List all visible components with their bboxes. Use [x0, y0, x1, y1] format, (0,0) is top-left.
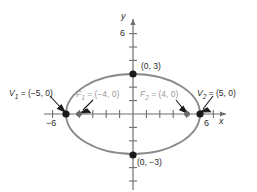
vertex2-label: V2 = (5, 0) — [197, 89, 236, 100]
point-focus2 — [184, 111, 190, 117]
x-axis-label: x — [219, 117, 224, 126]
point-covertex-top — [129, 70, 136, 77]
vertex1-label: V1 = (−5, 0) — [9, 89, 53, 100]
vertex2-value: = (5, 0) — [206, 88, 236, 98]
y-axis-arrow-icon — [130, 19, 135, 25]
focus1-leader-arrow-icon — [80, 100, 93, 113]
y-tick-label-6: 6 — [120, 29, 125, 38]
y-axis-label: y — [121, 12, 126, 21]
focus2-leader-arrow-icon — [176, 100, 187, 113]
point-vertex2 — [196, 110, 203, 117]
focus2-value: = (4, 0) — [149, 89, 179, 99]
covertex-top-label: (0, 3) — [141, 62, 161, 71]
point-vertex1 — [62, 110, 69, 117]
point-focus1 — [76, 111, 82, 117]
point-covertex-bottom — [129, 151, 136, 158]
vertex1-value: = (−5, 0) — [18, 88, 53, 98]
x-tick-label-6: 6 — [204, 119, 209, 128]
focus1-value: = (−4, 0) — [85, 89, 120, 99]
covertex-bottom-label: (0, −3) — [137, 158, 162, 167]
focus1-label: F1 = (−4, 0) — [76, 90, 119, 101]
focus2-label: F2 = (4, 0) — [140, 90, 178, 101]
x-tick-label-neg6: −6 — [46, 119, 56, 128]
